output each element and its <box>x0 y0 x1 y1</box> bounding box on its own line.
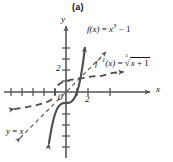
y-axis-tick-label-2: 2 <box>56 63 61 73</box>
x-axis-tick-label-2: 2 <box>85 94 90 104</box>
curve-function-f <box>49 47 85 144</box>
figure-panel: (a) <box>0 0 173 162</box>
function-label-f-text: f <box>87 24 90 34</box>
origin-label: 0 <box>58 92 63 102</box>
identity-line-label: y = x <box>6 126 24 136</box>
function-label-f-inverse: f−1(x) = 3√x + 1 <box>95 57 150 68</box>
x-axis-label: x <box>156 84 160 94</box>
y-axis-label: y <box>61 14 65 24</box>
function-label-f: f(x) = x3 − 1 <box>87 24 130 34</box>
